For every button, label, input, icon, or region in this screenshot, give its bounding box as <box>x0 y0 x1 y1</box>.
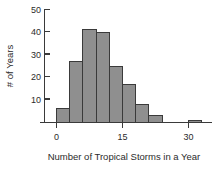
x-tick-label-0: 0 <box>54 132 59 142</box>
y-tick-label-40: 40 <box>31 27 41 37</box>
histogram-bar <box>189 120 202 122</box>
histogram-bar <box>123 84 136 122</box>
x-axis-title: Number of Tropical Storms in a Year <box>48 151 201 162</box>
y-tick-label-20: 20 <box>31 72 41 82</box>
histogram-bar <box>136 104 149 122</box>
histogram-bar <box>57 109 70 123</box>
y-tick-label-30: 30 <box>31 50 41 60</box>
histogram-bar <box>70 61 83 122</box>
y-tick-label-50: 50 <box>31 5 41 15</box>
chart-svg: 50 40 30 20 10 0 15 30 Number of Tropica… <box>0 0 218 171</box>
histogram-bar <box>96 32 109 122</box>
x-tick-label-15: 15 <box>117 132 127 142</box>
y-tick-label-10: 10 <box>31 95 41 105</box>
histogram-bar <box>83 30 96 123</box>
histogram-bar <box>109 66 122 123</box>
histogram-bar <box>149 116 162 123</box>
y-axis-title: # of Years <box>4 45 15 88</box>
x-tick-label-30: 30 <box>183 132 193 142</box>
histogram-chart: 50 40 30 20 10 0 15 30 Number of Tropica… <box>0 0 218 171</box>
